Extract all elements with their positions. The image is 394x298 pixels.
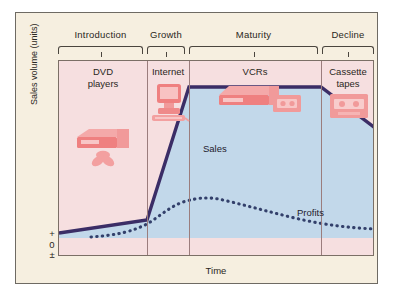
stage-bracket-tick — [254, 52, 255, 57]
y-axis-title: Sales volume (units) — [29, 0, 39, 105]
y-tick-minus: ± — [46, 250, 58, 260]
stage-header-introduction: Introduction — [56, 29, 145, 63]
stage-header-growth: Growth — [145, 29, 187, 63]
plot-area: DVD players In — [58, 60, 374, 256]
product-label-vcrs: VCRs — [189, 66, 321, 78]
annotation-profits: Profits — [297, 207, 324, 218]
dvd-player-icon — [73, 123, 133, 173]
chart-page: Introduction Growth Maturity Decline Sal — [0, 0, 394, 298]
product-label-cassette-tapes: Cassette tapes — [321, 66, 374, 89]
panel-introduction: DVD players — [59, 61, 148, 255]
y-axis-tick-labels: + 0 ± — [46, 229, 58, 261]
cassette-tape-icon — [329, 93, 369, 123]
stage-label-introduction: Introduction — [56, 29, 145, 40]
panel-maturity: VCRs — [189, 61, 322, 255]
stage-header-row: Introduction Growth Maturity Decline — [56, 29, 376, 63]
stage-label-decline: Decline — [320, 29, 376, 40]
desktop-computer-icon — [150, 83, 190, 131]
stage-header-decline: Decline — [320, 29, 376, 63]
stage-label-maturity: Maturity — [187, 29, 320, 40]
stage-header-maturity: Maturity — [187, 29, 320, 63]
annotation-sales: Sales — [203, 143, 227, 154]
panel-decline: Cassette tapes — [321, 61, 374, 255]
stage-label-growth: Growth — [145, 29, 187, 40]
stage-bracket-tick — [166, 52, 167, 57]
vcr-icon — [217, 81, 303, 119]
stage-bracket-tick — [101, 52, 102, 57]
product-label-dvd-players: DVD players — [59, 66, 147, 89]
y-tick-zero: 0 — [46, 240, 58, 250]
stage-bracket-tick — [348, 52, 349, 57]
x-axis-title: Time — [58, 265, 374, 276]
chart-sheet: Introduction Growth Maturity Decline Sal — [15, 12, 378, 284]
y-tick-plus: + — [46, 229, 58, 239]
panel-growth: Internet — [147, 61, 190, 255]
